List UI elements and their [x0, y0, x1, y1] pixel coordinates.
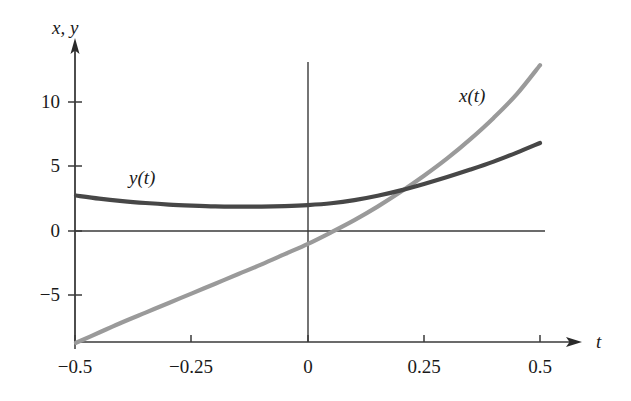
x-tick-label-025: 0.25	[379, 357, 469, 376]
curve-label-x-of-t: x(t)	[459, 86, 485, 105]
curve-label-y-of-t: y(t)	[129, 168, 155, 187]
x-tick-label-05: 0.5	[500, 357, 580, 376]
x-tick-label-neg05: −0.5	[35, 357, 115, 376]
chart-figure: x, y t 10 5 0 −5 −0.5 −0.25 0 0.25 0.5 y…	[0, 0, 631, 401]
y-tick-label-5: 5	[22, 156, 60, 175]
y-tick-label-10: 10	[22, 92, 60, 111]
y-tick-label-0: 0	[22, 221, 60, 240]
y-tick-label-neg5: −5	[22, 285, 60, 304]
x-axis-title: t	[596, 332, 601, 351]
x-tick-label-0: 0	[268, 357, 348, 376]
y-axis-title: x, y	[52, 18, 78, 37]
x-tick-label-neg025: −0.25	[146, 357, 236, 376]
plot-canvas	[0, 0, 631, 401]
